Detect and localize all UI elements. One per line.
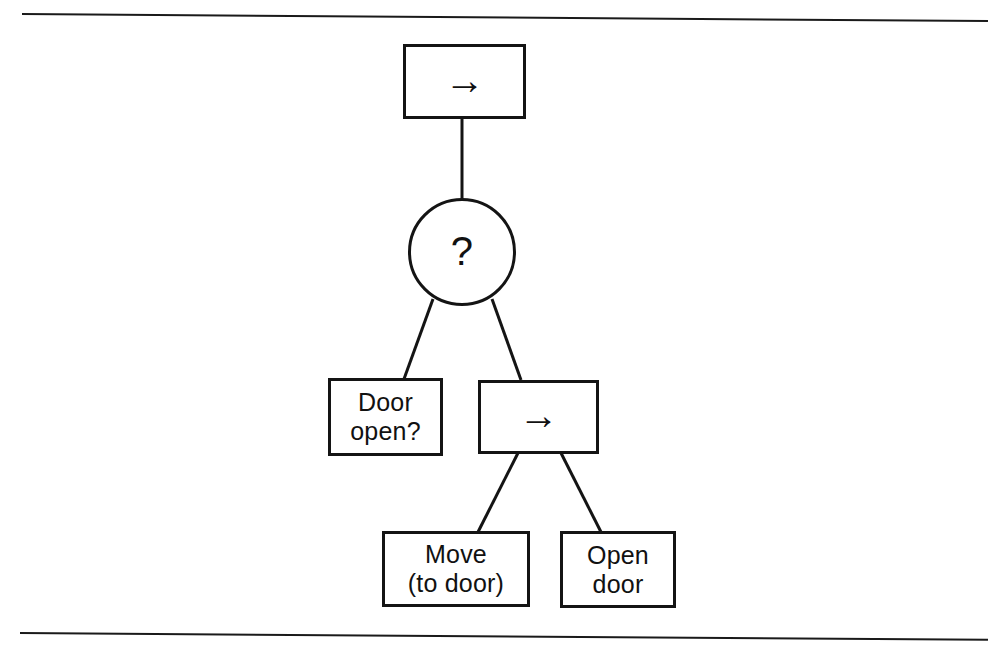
scanned-page: → ? Door open? → Move (to door) Open doo… — [0, 0, 1004, 659]
right-arrow-icon: → — [518, 395, 558, 435]
right-arrow-icon: → — [444, 60, 484, 100]
node-selector[interactable]: ? — [408, 198, 516, 306]
question-mark-icon: ? — [451, 231, 473, 271]
edge-selector-to-door-open — [404, 299, 433, 379]
edge-sequence-to-open-door — [561, 453, 601, 532]
node-open-door-action[interactable]: Open door — [560, 531, 676, 608]
node-door-open-condition[interactable]: Door open? — [328, 378, 443, 456]
edge-selector-to-sequence — [492, 299, 521, 380]
node-sequence[interactable]: → — [478, 380, 599, 454]
node-label-door-open: Door open? — [350, 388, 421, 446]
node-label-open-door: Open door — [587, 541, 649, 599]
node-label-move-to-door: Move (to door) — [408, 540, 504, 598]
node-root-sequence[interactable]: → — [403, 44, 526, 119]
edge-sequence-to-move — [478, 453, 518, 532]
node-move-to-door-action[interactable]: Move (to door) — [382, 531, 530, 607]
behavior-tree-diagram: → ? Door open? → Move (to door) Open doo… — [0, 0, 1004, 659]
